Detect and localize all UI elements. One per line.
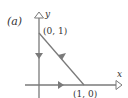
arrow-right-icon [58,81,64,89]
arrow-up-left-icon [58,53,66,60]
x-axis-arrowhead [116,81,122,90]
point-label-top: (0, 1) [43,26,67,36]
y-axis-arrowhead [35,12,44,18]
y-axis-label: y [44,9,51,19]
arrow-down-icon [35,53,43,59]
x-axis-label: x [117,69,122,79]
point-label-right: (1, 0) [73,89,97,98]
panel-label: (a) [7,15,22,28]
diagram: (a) y x (0, 1) (1, 0) [0,0,128,98]
